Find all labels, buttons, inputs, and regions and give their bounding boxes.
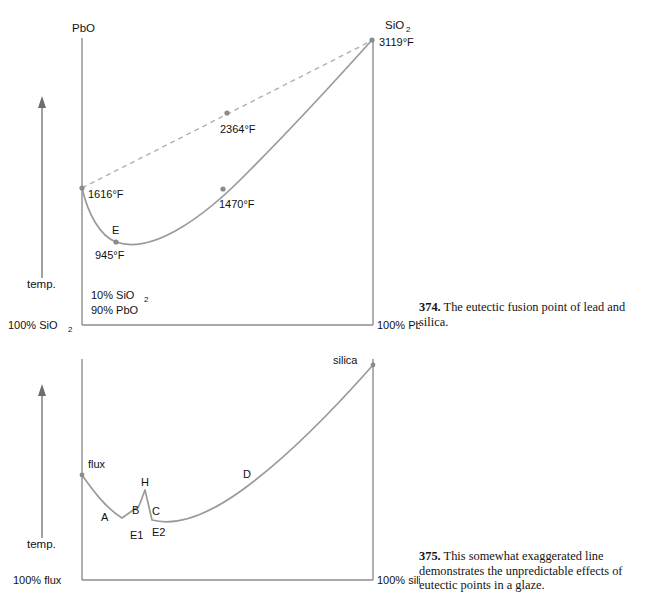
note-line1-sub: 2 — [144, 295, 149, 304]
label-1616: 1616°F — [88, 188, 124, 200]
caption-375: 375. This somewhat exaggerated line demo… — [419, 549, 645, 593]
x-axis-left-label-374: 100% SiO 2 — [8, 319, 73, 334]
endpoint-label-sio2-sub: 2 — [406, 25, 411, 34]
y-axis-label-374: temp. — [27, 278, 56, 290]
y-axis-label-375: temp. — [27, 538, 56, 550]
x-axis-left-label-375: 100% flux — [13, 574, 62, 586]
label-C: C — [152, 505, 160, 517]
marker-945-eutectic — [113, 239, 118, 244]
temp-arrow-375 — [38, 384, 46, 538]
liquidus-curve-374 — [82, 40, 372, 245]
endpoint-label-pbo: PbO — [72, 22, 95, 34]
label-E1: E1 — [130, 529, 143, 541]
caption-374-text: The eutectic fusion point of lead and si… — [419, 300, 625, 329]
composition-note-374: 10% SiO 2 90% PbO — [91, 289, 149, 316]
marker-2364 — [224, 110, 229, 115]
label-3119: 3119°F — [379, 36, 414, 48]
caption-374: 374. The eutectic fusion point of lead a… — [419, 300, 645, 329]
x-left-sub: 2 — [68, 325, 73, 334]
label-flux: flux — [88, 458, 106, 470]
label-E2: E2 — [152, 526, 165, 538]
figure-375-diagram-layer: temp. flux silica A B C D H E1 E2 100% f… — [0, 340, 420, 611]
caption-375-number: 375. — [419, 549, 441, 563]
marker-flux — [80, 473, 85, 478]
label-1470: 1470°F — [219, 198, 255, 210]
figure-374-diagram: temp. PbO SiO 2 3119°F 2364°F 1616°F 147… — [0, 0, 420, 340]
label-silica: silica — [333, 354, 358, 366]
label-B: B — [132, 504, 139, 516]
caption-374-number: 374. — [419, 300, 441, 314]
label-A: A — [101, 511, 109, 523]
liquidus-curve-375 — [82, 365, 373, 522]
marker-silica — [371, 363, 376, 368]
marker-3119 — [369, 37, 374, 42]
label-945: 945°F — [95, 249, 125, 261]
note-line1-base: 10% SiO — [91, 289, 135, 301]
note-line2: 90% PbO — [91, 304, 139, 316]
endpoint-label-sio2: SiO 2 — [385, 19, 411, 34]
temp-arrow-374 — [38, 96, 46, 278]
x-axis-right-label-375: 100% silica — [377, 574, 420, 586]
figures-column: temp. PbO SiO 2 3119°F 2364°F 1616°F 147… — [0, 0, 420, 611]
label-2364: 2364°F — [220, 123, 256, 135]
x-left-base: 100% SiO — [8, 319, 58, 331]
label-D: D — [243, 468, 251, 480]
endpoint-label-sio2-base: SiO — [385, 19, 404, 31]
marker-1470 — [220, 186, 225, 191]
label-E: E — [112, 224, 119, 236]
label-H: H — [141, 476, 149, 488]
marker-1616 — [79, 185, 84, 190]
caption-375-text: This somewhat exaggerated line demonstra… — [419, 549, 622, 592]
x-axis-right-label-374: 100% PbO — [377, 319, 420, 331]
